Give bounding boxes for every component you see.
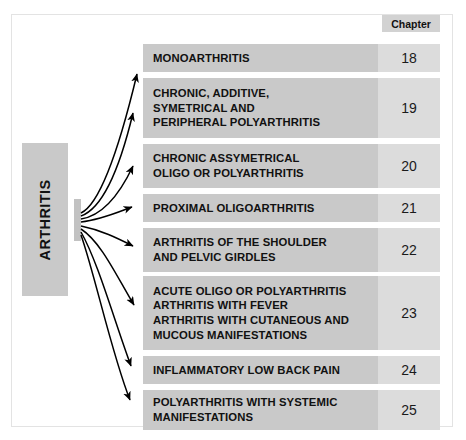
row-chapter-number: 18 [378,44,440,72]
arthritis-classification-diagram: ARTHRITIS Chapter MONOARTHRITIS18CHRONIC… [0,0,466,440]
row-chapter-number: 24 [378,356,440,384]
table-row: POLYARTHRITIS WITH SYSTEMICMANIFESTATION… [143,390,440,430]
chapter-column-header: Chapter [382,15,440,32]
table-row: CHRONIC, ADDITIVE,SYMETRICAL ANDPERIPHER… [143,78,440,138]
row-label-line: CHRONIC, ADDITIVE, [153,86,378,101]
row-label: MONOARTHRITIS [143,44,378,72]
row-label-line: ARTHRITIS WITH CUTANEOUS AND [153,313,378,328]
row-chapter-number: 22 [378,228,440,272]
row-chapter-number: 19 [378,78,440,138]
table-row: ACUTE OLIGO OR POLYARTHRITISARTHRITIS WI… [143,276,440,350]
row-label: PROXIMAL OLIGOARTHRITIS [143,194,378,222]
row-label-line: ARTHRITIS OF THE SHOULDER [153,235,378,250]
root-node-label: ARTHRITIS [37,179,53,260]
row-label-line: MONOARTHRITIS [153,51,378,66]
root-node-arthritis: ARTHRITIS [22,143,68,296]
table-row: ARTHRITIS OF THE SHOULDERAND PELVIC GIRD… [143,228,440,272]
row-chapter-number: 23 [378,276,440,350]
table-row: INFLAMMATORY LOW BACK PAIN24 [143,356,440,384]
row-label-line: OLIGO OR POLYARTHRITIS [153,166,378,181]
row-label: CHRONIC, ADDITIVE,SYMETRICAL ANDPERIPHER… [143,78,378,138]
row-label-line: AND PELVIC GIRDLES [153,250,378,265]
row-label-line: POLYARTHRITIS WITH SYSTEMIC [153,395,378,410]
connector-hub [74,199,81,241]
row-label-line: PROXIMAL OLIGOARTHRITIS [153,201,378,216]
row-chapter-number: 20 [378,144,440,188]
row-label-line: MUCOUS MANIFESTATIONS [153,328,378,343]
row-label-line: SYMETRICAL AND [153,101,378,116]
row-label: POLYARTHRITIS WITH SYSTEMICMANIFESTATION… [143,390,378,430]
row-label-line: MANIFESTATIONS [153,410,378,425]
row-label-line: ACUTE OLIGO OR POLYARTHRITIS [153,284,378,299]
row-label-line: PERIPHERAL POLYARTHRITIS [153,115,378,130]
row-chapter-number: 21 [378,194,440,222]
row-label-line: ARTHRITIS WITH FEVER [153,298,378,313]
row-label: CHRONIC ASSYMETRICALOLIGO OR POLYARTHRIT… [143,144,378,188]
row-label: ACUTE OLIGO OR POLYARTHRITISARTHRITIS WI… [143,276,378,350]
row-label: ARTHRITIS OF THE SHOULDERAND PELVIC GIRD… [143,228,378,272]
row-label-line: INFLAMMATORY LOW BACK PAIN [153,363,378,378]
table-row: CHRONIC ASSYMETRICALOLIGO OR POLYARTHRIT… [143,144,440,188]
table-row: PROXIMAL OLIGOARTHRITIS21 [143,194,440,222]
row-label: INFLAMMATORY LOW BACK PAIN [143,356,378,384]
table-row: MONOARTHRITIS18 [143,44,440,72]
row-label-line: CHRONIC ASSYMETRICAL [153,151,378,166]
row-chapter-number: 25 [378,390,440,430]
